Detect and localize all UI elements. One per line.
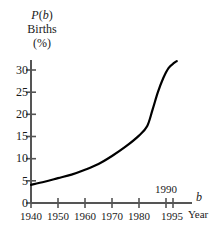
- y-tick-label-10: 10: [8, 152, 28, 164]
- y-tick-label-15: 15: [8, 130, 28, 142]
- data-curve: [31, 61, 177, 185]
- y-tick-label-30: 30: [8, 64, 28, 76]
- chart-canvas: [0, 0, 224, 233]
- y-tick-label-5: 5: [8, 175, 28, 187]
- x-tick-label-1995: 1995: [152, 211, 192, 222]
- y-tick-label-25: 25: [8, 86, 28, 98]
- y-tick-label-20: 20: [8, 108, 28, 120]
- x-axis-title: Year: [188, 208, 208, 220]
- y-tick-label-0: 0: [8, 197, 28, 209]
- x-axis-variable-label: b: [196, 190, 202, 205]
- chart-figure: P(b) Births (%) 30: [0, 0, 224, 233]
- x-tick-label-1990: 1990: [146, 184, 186, 195]
